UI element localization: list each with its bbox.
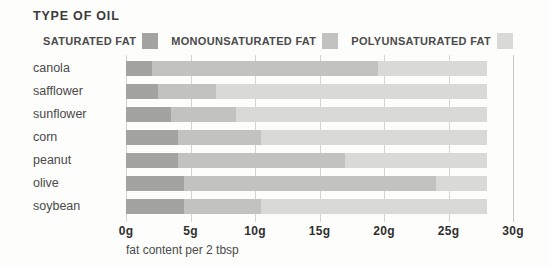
legend-item-polyunsaturated: POLYUNSATURATED FAT: [351, 33, 513, 49]
bar-segment-soybean-polyunsaturated: [261, 199, 487, 214]
bar-segment-canola-polyunsaturated: [378, 61, 488, 76]
x-axis-caption: fat content per 2 tbsp: [126, 243, 239, 257]
legend-label-saturated: SATURATED FAT: [43, 35, 136, 47]
bar-segment-safflower-saturated: [126, 84, 158, 99]
bar-segment-peanut-monounsaturated: [178, 153, 346, 168]
category-label-canola: canola: [33, 61, 123, 76]
chart-canvas: TYPE OF OIL SATURATED FAT MONOUNSATURATE…: [0, 0, 549, 268]
bar-segment-safflower-polyunsaturated: [216, 84, 487, 99]
category-label-peanut: peanut: [33, 153, 123, 168]
bar-row-sunflower: [126, 107, 487, 122]
category-label-soybean: soybean: [33, 199, 123, 214]
bar-segment-olive-polyunsaturated: [436, 176, 488, 191]
bar-segment-olive-monounsaturated: [184, 176, 436, 191]
category-label-corn: corn: [33, 130, 123, 145]
saturated-fat-swatch-icon: [142, 33, 158, 49]
bar-segment-sunflower-saturated: [126, 107, 171, 122]
bar-segment-canola-monounsaturated: [152, 61, 378, 76]
legend-label-monounsaturated: MONOUNSATURATED FAT: [171, 35, 316, 47]
x-axis-tick-label-30g: 30g: [491, 224, 535, 238]
bar-segment-soybean-saturated: [126, 199, 184, 214]
bar-row-safflower: [126, 84, 487, 99]
x-axis-tick-label-25g: 25g: [427, 224, 471, 238]
category-label-olive: olive: [33, 176, 123, 191]
bar-segment-safflower-monounsaturated: [158, 84, 216, 99]
x-axis-tick-label-10g: 10g: [233, 224, 277, 238]
category-label-safflower: safflower: [33, 84, 123, 99]
polyunsaturated-fat-swatch-icon: [497, 33, 513, 49]
bar-segment-corn-monounsaturated: [178, 130, 262, 145]
bar-segment-corn-saturated: [126, 130, 178, 145]
legend-item-monounsaturated: MONOUNSATURATED FAT: [171, 33, 338, 49]
x-axis-tick-label-0g: 0g: [104, 224, 148, 238]
bar-segment-soybean-monounsaturated: [184, 199, 261, 214]
x-axis-tick-label-5g: 5g: [169, 224, 213, 238]
bar-row-soybean: [126, 199, 487, 214]
bar-segment-corn-polyunsaturated: [261, 130, 487, 145]
bar-row-olive: [126, 176, 487, 191]
category-label-sunflower: sunflower: [33, 107, 123, 122]
plot-area: [126, 55, 513, 215]
bar-segment-peanut-saturated: [126, 153, 178, 168]
x-axis-tick-label-20g: 20g: [362, 224, 406, 238]
bar-segment-sunflower-polyunsaturated: [236, 107, 488, 122]
bar-segment-peanut-polyunsaturated: [345, 153, 487, 168]
bar-segment-sunflower-monounsaturated: [171, 107, 236, 122]
legend: SATURATED FAT MONOUNSATURATED FAT POLYUN…: [43, 32, 513, 49]
gridline-30g: [513, 55, 514, 222]
legend-item-saturated: SATURATED FAT: [43, 33, 158, 49]
bar-row-canola: [126, 61, 487, 76]
bar-row-peanut: [126, 153, 487, 168]
page-title: TYPE OF OIL: [33, 9, 120, 23]
x-axis-tick-label-15g: 15g: [298, 224, 342, 238]
monounsaturated-fat-swatch-icon: [322, 33, 338, 49]
bar-row-corn: [126, 130, 487, 145]
bar-segment-olive-saturated: [126, 176, 184, 191]
legend-label-polyunsaturated: POLYUNSATURATED FAT: [351, 35, 491, 47]
bar-segment-canola-saturated: [126, 61, 152, 76]
